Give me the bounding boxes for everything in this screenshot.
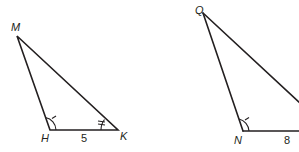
vertex-label-h: H	[41, 132, 49, 144]
similar-triangles-diagram: M H K 5 Q N 8	[0, 0, 299, 152]
vertex-label-q: Q	[195, 4, 204, 16]
vertex-label-m: M	[11, 21, 21, 33]
angle-tick-h	[52, 116, 56, 119]
triangle-mhk-outline	[17, 36, 118, 130]
side-label-n-right: 8	[284, 134, 290, 146]
vertex-label-n: N	[234, 134, 242, 146]
side-label-hk: 5	[81, 132, 87, 144]
vertex-label-k: K	[120, 130, 128, 142]
angle-tick-k-2	[98, 124, 105, 125]
triangle-mhk: M H K 5	[11, 21, 128, 144]
triangle-qn: Q N 8	[195, 4, 299, 146]
angle-tick-n	[245, 118, 249, 121]
side-q-right	[203, 13, 299, 103]
